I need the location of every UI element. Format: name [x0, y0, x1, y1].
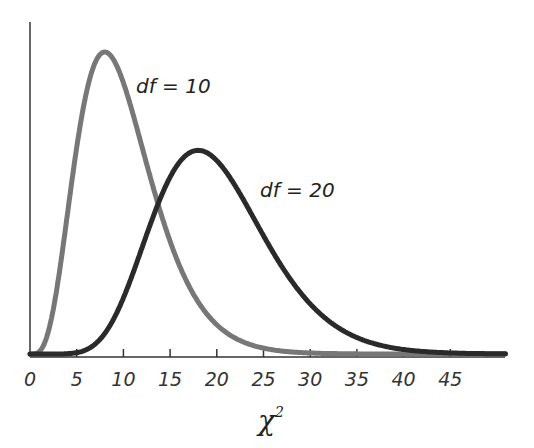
- x-tick-label: 30: [298, 368, 322, 390]
- x-axis-label: χ2: [256, 404, 284, 437]
- x-axis-tick-labels: 051015202530354045: [24, 368, 462, 390]
- curve-df-10: [30, 52, 505, 354]
- x-tick-label: 10: [111, 368, 135, 390]
- chi-square-chart: 051015202530354045 df = 10 df = 20 χ2: [0, 0, 534, 448]
- annotation-df-20: df = 20: [260, 178, 335, 202]
- x-tick-label: 45: [438, 368, 462, 390]
- x-tick-label: 40: [392, 368, 416, 390]
- x-tick-label: 0: [24, 368, 36, 390]
- x-tick-label: 25: [251, 368, 275, 390]
- plot-area: 051015202530354045 df = 10 df = 20 χ2: [24, 22, 505, 437]
- annotation-df-10: df = 10: [136, 74, 211, 98]
- x-tick-label: 15: [158, 368, 182, 390]
- x-tick-label: 5: [71, 368, 83, 390]
- x-tick-label: 20: [205, 368, 229, 390]
- x-tick-label: 35: [345, 368, 369, 390]
